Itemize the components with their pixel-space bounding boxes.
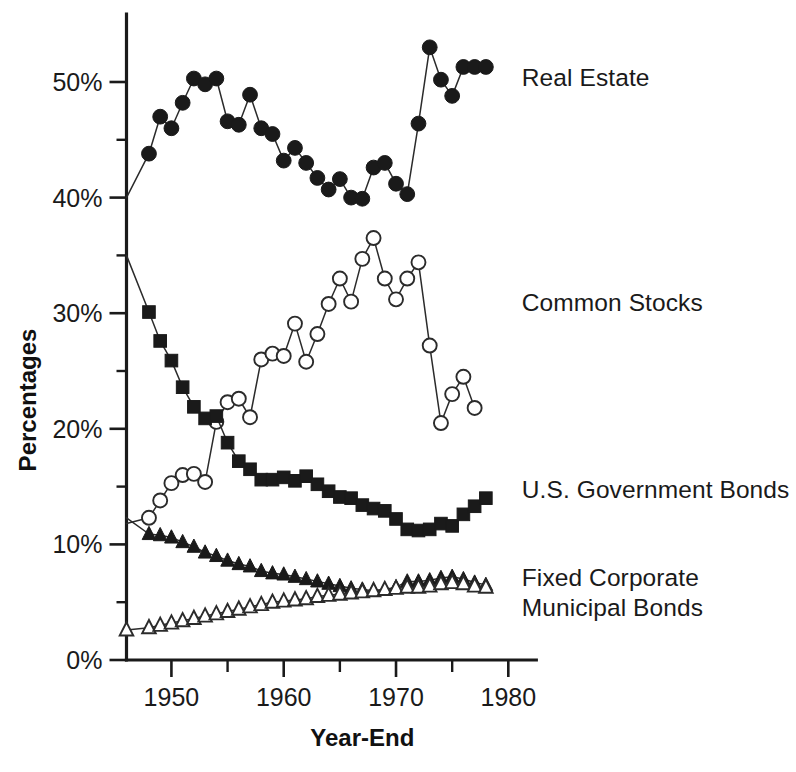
data-point: [389, 292, 403, 306]
data-point: [244, 463, 257, 476]
data-point: [423, 339, 437, 353]
data-point: [434, 416, 448, 430]
data-point: [233, 455, 246, 468]
data-point: [232, 392, 246, 406]
data-point: [254, 563, 268, 576]
data-point: [445, 387, 459, 401]
y-tick-label: 0%: [66, 646, 102, 674]
data-point: [288, 140, 303, 155]
x-tick-label: 1970: [368, 683, 424, 711]
data-point: [411, 255, 425, 269]
data-point: [401, 523, 414, 536]
data-point: [377, 156, 392, 171]
data-point: [334, 491, 347, 504]
data-series-layer: [120, 40, 494, 636]
data-point: [412, 524, 425, 537]
y-tick-label: 10%: [52, 530, 102, 558]
asset-allocation-line-chart: 0%10%20%30%40%50%1950196019701980 Year-E…: [0, 0, 796, 772]
data-point: [456, 370, 470, 384]
data-point: [322, 297, 336, 311]
data-point: [344, 295, 358, 309]
data-point: [153, 109, 168, 124]
data-point: [321, 182, 336, 197]
data-point: [390, 513, 403, 526]
y-tick-label: 50%: [52, 68, 102, 96]
data-point: [457, 508, 470, 521]
data-point: [400, 272, 414, 286]
data-point: [446, 520, 459, 533]
series-label-common-stocks: Common Stocks: [522, 289, 703, 318]
data-point: [142, 526, 156, 539]
data-point: [164, 121, 179, 136]
data-point: [153, 493, 167, 507]
data-point: [288, 317, 302, 331]
data-point: [199, 412, 212, 425]
y-tick-label: 30%: [52, 299, 102, 327]
data-point: [445, 88, 460, 103]
data-point: [332, 172, 347, 187]
data-point: [221, 436, 234, 449]
data-point: [468, 500, 481, 513]
data-point: [266, 473, 279, 486]
data-point: [378, 272, 392, 286]
series-label-us-government-bonds: U.S. Government Bonds: [522, 476, 790, 505]
data-point: [434, 72, 449, 87]
data-point: [389, 176, 404, 191]
data-point: [255, 473, 268, 486]
data-point: [367, 502, 380, 515]
data-point: [142, 511, 156, 525]
data-point: [310, 171, 325, 186]
data-point: [209, 71, 224, 86]
data-point: [176, 534, 190, 547]
series-label-municipal-bonds: Municipal Bonds: [522, 594, 703, 623]
data-point: [175, 95, 190, 110]
data-point: [187, 539, 201, 552]
data-point: [277, 471, 290, 484]
data-point: [356, 499, 369, 512]
data-point: [243, 87, 258, 102]
data-point: [210, 410, 223, 423]
data-point: [221, 553, 235, 566]
data-point: [243, 410, 257, 424]
data-point: [367, 231, 381, 245]
data-point: [276, 153, 291, 168]
y-axis-title: Percentages: [14, 329, 41, 472]
data-point: [355, 191, 370, 206]
data-point: [411, 116, 426, 131]
data-point: [142, 146, 157, 161]
data-point: [188, 401, 201, 414]
data-point: [299, 355, 313, 369]
data-point: [345, 492, 358, 505]
data-point: [478, 60, 493, 75]
x-axis-title: Year-End: [310, 724, 414, 751]
data-point: [277, 349, 291, 363]
data-point: [198, 475, 212, 489]
data-point: [231, 117, 246, 132]
data-point: [165, 354, 178, 367]
data-point: [480, 492, 493, 505]
data-point: [322, 485, 335, 498]
y-tick-label: 20%: [52, 415, 102, 443]
y-tick-label: 40%: [52, 184, 102, 212]
data-point: [435, 517, 448, 530]
data-point: [422, 40, 437, 55]
data-point: [378, 505, 391, 518]
data-point: [265, 127, 280, 142]
x-tick-label: 1950: [144, 683, 200, 711]
data-point: [154, 335, 167, 348]
chart-page: 0%10%20%30%40%50%1950196019701980 Year-E…: [0, 0, 796, 772]
series-line: [127, 47, 486, 198]
data-point: [299, 156, 314, 171]
data-point: [300, 470, 313, 483]
series-label-fixed-corporate: Fixed Corporate: [522, 564, 699, 593]
data-point: [355, 252, 369, 266]
x-tick-label: 1960: [256, 683, 312, 711]
series-real-estate: [127, 40, 494, 206]
data-point: [423, 523, 436, 536]
data-point: [311, 478, 324, 491]
data-point: [400, 187, 415, 202]
data-point: [143, 306, 156, 319]
series-label-real-estate: Real Estate: [522, 64, 650, 93]
data-point: [333, 272, 347, 286]
data-point: [468, 401, 482, 415]
